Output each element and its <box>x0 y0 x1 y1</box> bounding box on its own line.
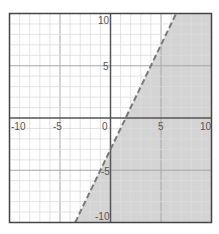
inequality-chart: -10 -5 0 5 10 10 5 -5 -10 <box>0 0 219 234</box>
y-tick-label: -5 <box>101 166 110 177</box>
x-tick-label: 0 <box>102 121 108 132</box>
x-tick-label: -10 <box>11 121 26 132</box>
x-tick-label: 5 <box>158 121 164 132</box>
x-tick-label: -5 <box>53 121 62 132</box>
x-tick-label: 10 <box>200 121 212 132</box>
y-tick-label: -10 <box>95 211 110 222</box>
y-tick-label: 10 <box>98 15 110 26</box>
y-tick-label: 5 <box>103 61 109 72</box>
